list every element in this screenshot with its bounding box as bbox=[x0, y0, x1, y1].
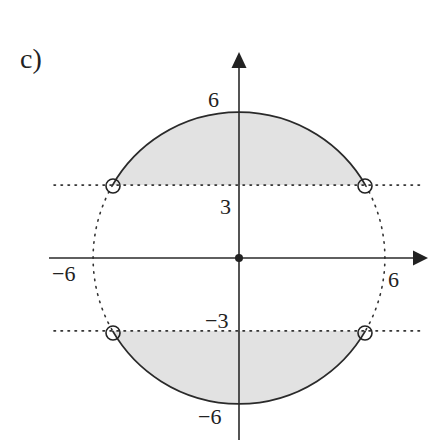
y-tick-label-neg3: −3 bbox=[205, 308, 228, 333]
y-tick-label-3: 3 bbox=[220, 194, 231, 219]
origin-dot bbox=[235, 254, 243, 262]
figure-canvas: c) 6 3 −3 −6 −6 6 bbox=[0, 0, 448, 442]
y-axis-arrow-icon bbox=[232, 52, 247, 68]
x-tick-label-6: 6 bbox=[388, 267, 399, 292]
y-tick-label-6: 6 bbox=[208, 87, 219, 112]
x-tick-label-neg6: −6 bbox=[52, 261, 75, 286]
y-tick-label-neg6: −6 bbox=[198, 404, 221, 429]
part-label: c) bbox=[20, 43, 42, 74]
x-axis-arrow-icon bbox=[413, 251, 428, 266]
